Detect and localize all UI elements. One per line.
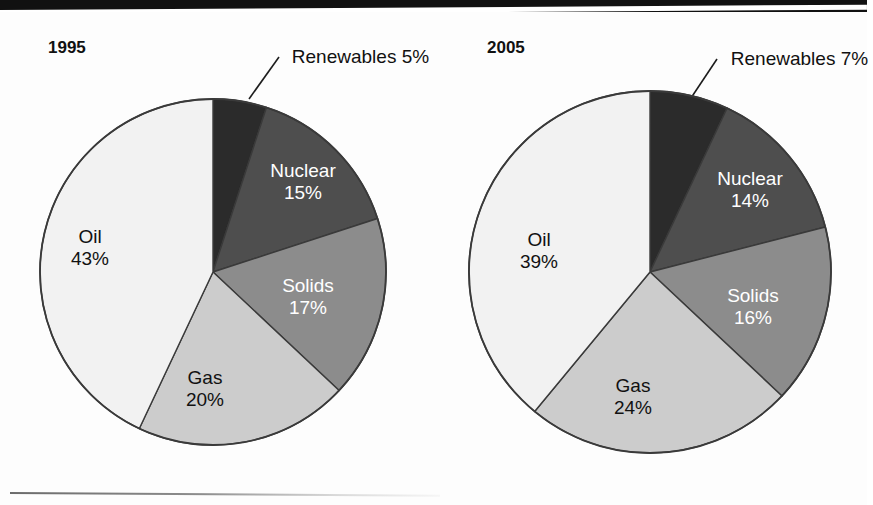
pie-svg-2005 bbox=[467, 89, 833, 455]
year-label-2005: 2005 bbox=[487, 38, 525, 58]
slice-name: Renewables bbox=[731, 48, 836, 69]
title-banner bbox=[0, 0, 867, 12]
pie-chart-1995 bbox=[38, 97, 388, 447]
leader-line-renewables-1995 bbox=[249, 57, 279, 99]
slice-percent: 7% bbox=[841, 48, 868, 69]
banner-slant-edge bbox=[0, 5, 867, 12]
slice-name: Renewables bbox=[292, 46, 397, 67]
pie-chart-2005 bbox=[467, 89, 833, 455]
callout-label-renewables-1995: Renewables 5% bbox=[283, 46, 438, 68]
callout-label-renewables-2005: Renewables 7% bbox=[722, 48, 873, 70]
pie-svg-1995 bbox=[38, 97, 388, 447]
slice-percent: 5% bbox=[402, 46, 429, 67]
year-label-1995: 1995 bbox=[48, 38, 86, 58]
bottom-rule bbox=[10, 492, 440, 497]
